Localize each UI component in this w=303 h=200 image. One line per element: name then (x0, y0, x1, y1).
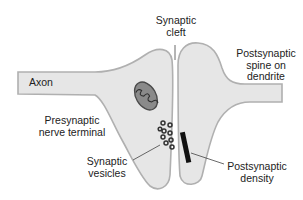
presynaptic-terminal-label: Presynaptic nerve terminal (32, 115, 112, 138)
synapse-diagram: Axon Synaptic cleft Postsynaptic spine o… (0, 0, 303, 200)
synaptic-cleft-label: Synaptic cleft (148, 15, 204, 38)
postsynaptic-density-label: Postsynaptic density (222, 161, 292, 184)
synaptic-vesicles-label: Synaptic vesicles (82, 156, 132, 179)
postsynaptic-spine-label: Postsynaptic spine on dendrite (226, 48, 303, 83)
axon-label: Axon (29, 77, 53, 89)
